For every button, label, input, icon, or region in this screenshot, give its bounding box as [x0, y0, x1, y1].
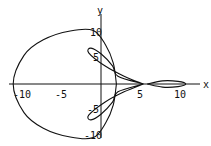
- x-tick-neg10: -10: [13, 89, 31, 100]
- y-axis-label: y: [97, 5, 103, 16]
- x-tick-neg5: -5: [55, 89, 67, 100]
- y-tick-5: 5: [93, 52, 99, 63]
- y-tick-10: 10: [90, 27, 102, 38]
- plot-canvas: x y -10 -5 5 10 10 5 -5 -10: [0, 0, 211, 146]
- x-axis-label: x: [203, 79, 209, 90]
- y-tick-neg10: -10: [84, 130, 102, 141]
- axis-labels: x y -10 -5 5 10 10 5 -5 -10: [13, 5, 209, 141]
- x-tick-5: 5: [137, 89, 143, 100]
- y-tick-neg5: -5: [87, 104, 99, 115]
- x-tick-10: 10: [174, 89, 186, 100]
- axes: [9, 14, 200, 138]
